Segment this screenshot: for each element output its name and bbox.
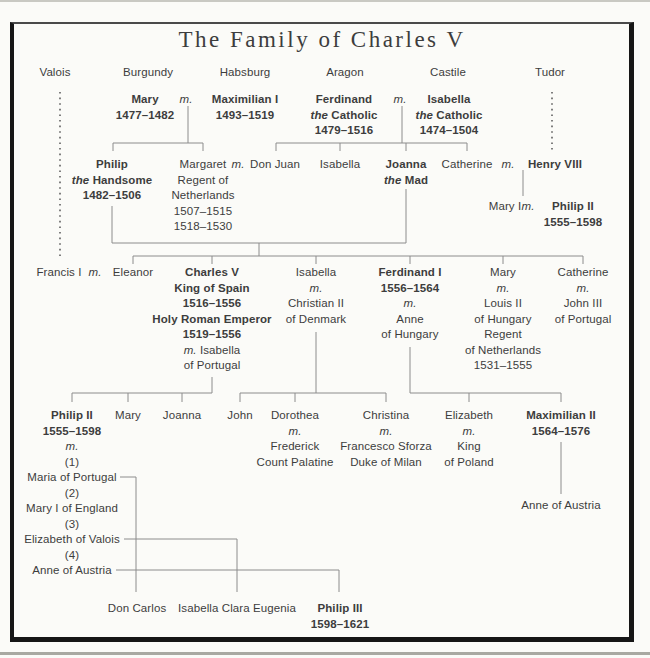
philip-joanna-marriage-connector	[112, 189, 406, 256]
anne-of-austria: Anne of Austria	[521, 498, 601, 514]
charles-v-children-bracket	[72, 377, 212, 402]
m-catherine-henry: m.	[502, 157, 515, 173]
mary-of-hungary: Marym.Louis IIof HungaryRegentof Netherl…	[465, 265, 541, 374]
m-mary-i-philip-ii: m.	[522, 199, 535, 215]
catherine-of-austria: Catherinem.John IIIof Portugal	[555, 265, 612, 327]
mary-of-burgundy: Mary1477–1482	[116, 92, 174, 123]
philip-ii: Philip II1555–1598m.(1)Maria of Portugal…	[24, 408, 120, 579]
philip-iii: Philip III1598–1621	[311, 601, 369, 632]
book-page: The Family of Charles V ValoisBurgundyHa…	[0, 0, 650, 658]
philip-ii-of-spain-tudor: Philip II1555–1598	[544, 199, 602, 230]
isabella-the-catholic: Isabellathe Catholic1474–1504	[415, 92, 482, 139]
don-juan: Don Juan	[250, 157, 300, 173]
dynasty-valois: Valois	[39, 65, 70, 81]
francis-i: Francis I	[37, 265, 82, 281]
john-of-denmark: John	[227, 408, 252, 424]
dynasty-aragon: Aragon	[326, 65, 364, 81]
dynasty-tudor: Tudor	[535, 65, 565, 81]
dynasty-burgundy: Burgundy	[123, 65, 173, 81]
philip-the-handsome: Philipthe Handsome1482–1506	[72, 157, 152, 204]
philip-ii-wives-connectors	[116, 477, 339, 570]
elizabeth-of-austria: Elizabethm.Kingof Poland	[444, 408, 494, 470]
ferdinand-the-catholic: Ferdinandthe Catholic1479–1516	[310, 92, 377, 139]
m-mary-maximilian: m.	[180, 92, 193, 108]
philip-ii-children-connectors	[136, 477, 339, 592]
eleanor: Eleanor	[113, 265, 153, 281]
mary-i: Mary I	[489, 199, 522, 215]
christina: Christinam.Francesco SforzaDuke of Milan	[340, 408, 432, 470]
margaret-regent: MargaretRegent ofNetherlands1507–1515151…	[171, 157, 234, 235]
joanna-the-mad: Joannathe Mad	[384, 157, 428, 188]
isabella-of-aragon: Isabella	[320, 157, 360, 173]
dorothea: Dorotheam.FrederickCount Palatine	[257, 408, 334, 470]
dynasty-habsburg: Habsburg	[220, 65, 271, 81]
charles-v: Charles VKing of Spain1516–1556Holy Roma…	[152, 265, 271, 374]
dynasty-castile: Castile	[430, 65, 466, 81]
isabella-clara-eugenia: Isabella Clara Eugenia	[178, 601, 296, 617]
isabella-of-austria: Isabellam.Christian IIof Denmark	[286, 265, 346, 327]
m-ferdinand-isabella: m.	[394, 92, 407, 108]
joanna-of-spain: Joanna	[163, 408, 201, 424]
maximilian-i: Maximilian I1493–1519	[212, 92, 278, 123]
maximilian-ii: Maximilian II1564–1576	[526, 408, 596, 439]
catherine-of-aragon: Catherine	[442, 157, 493, 173]
don-carlos: Don Carlos	[108, 601, 167, 617]
mary-of-spain: Mary	[115, 408, 141, 424]
gen3-children-bracket	[133, 256, 583, 264]
m-margaret-don-juan: m.	[232, 157, 245, 173]
henry-viii: Henry VIII	[528, 157, 582, 173]
ferdinand-i: Ferdinand I1556–1564m.Anneof Hungary	[378, 265, 441, 343]
m-francis-eleanor: m.	[89, 265, 102, 281]
